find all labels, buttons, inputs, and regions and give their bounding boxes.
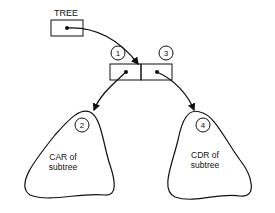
cdr-subtree-label-line2: subtree (191, 160, 220, 170)
cdr-subtree-number: 4 (201, 121, 206, 130)
tree-pointer-arrow (67, 28, 138, 64)
cdr-subtree-label-line1: CDR of (191, 150, 220, 160)
car-subtree-number: 2 (80, 121, 85, 130)
cdr-number: 3 (164, 49, 169, 58)
car-subtree-label-line2: subtree (49, 162, 78, 172)
tree-diagram: TREE 1 3 2 CAR of subtree 4 CDR of subtr… (0, 0, 275, 213)
cdr-arrow (157, 72, 194, 110)
car-subtree-label-line1: CAR of (49, 152, 77, 162)
car-number: 1 (116, 49, 121, 58)
tree-label: TREE (54, 8, 78, 18)
